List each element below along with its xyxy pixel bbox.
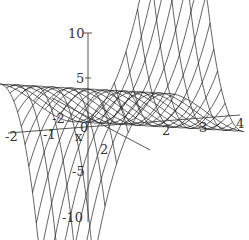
z-tick-10: 10: [68, 27, 85, 40]
x-tick-m2: -2: [5, 130, 18, 143]
surface-plot: 10 5 -5 -10 -2 -1 0 x 2 3 4 -2 2: [0, 0, 249, 240]
x-tick-4: 4: [236, 117, 244, 130]
y-tick-m2: -2: [52, 112, 65, 125]
z-tick-m10: -10: [62, 211, 83, 224]
x-tick-m1: -1: [43, 128, 56, 141]
z-tick-m5: -5: [72, 165, 85, 178]
x-tick-3: 3: [199, 121, 207, 134]
z-tick-5: 5: [76, 72, 84, 85]
x-axis-label: x: [75, 130, 82, 143]
y-tick-2: 2: [100, 143, 108, 156]
surface-mesh: [0, 0, 249, 240]
x-tick-2: 2: [162, 124, 170, 137]
